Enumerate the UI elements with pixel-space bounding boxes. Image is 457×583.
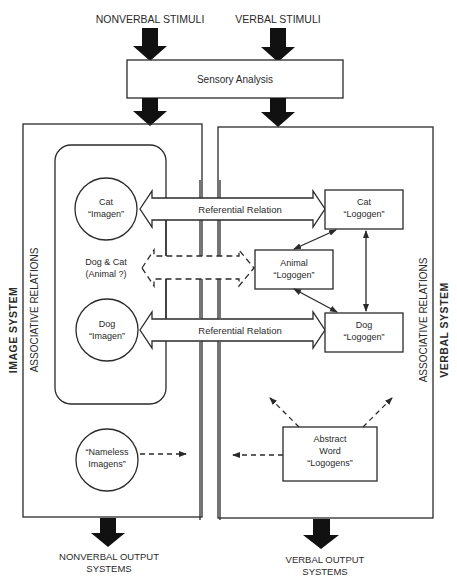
svg-text:Word: Word [319, 446, 340, 456]
cat-imagen-node: Cat “Imagen” [75, 178, 137, 240]
cat-logogen-node: Cat “Logogen” [325, 190, 403, 229]
svg-text:Cat: Cat [99, 197, 114, 207]
verbal-output-arrow-icon [303, 519, 339, 549]
referential-relation-label-2: Referential Relation [198, 325, 281, 336]
nonverbal-input-arrow-icon [133, 28, 167, 61]
image-associative-relations-label: ASSOCIATIVE RELATIONS [29, 247, 40, 372]
svg-text:Dog & Cat: Dog & Cat [85, 257, 127, 267]
referential-relation-label-1: Referential Relation [198, 204, 281, 215]
svg-text:Dog: Dog [356, 320, 373, 330]
svg-text:Dog: Dog [99, 319, 116, 329]
svg-text:Cat: Cat [357, 197, 372, 207]
svg-text:“Imagen”: “Imagen” [88, 209, 124, 219]
nameless-imagens-node: “Nameless Imagens” [76, 429, 138, 491]
svg-text:“Logogen”: “Logogen” [343, 332, 384, 342]
verbal-associative-relations-label: ASSOCIATIVE RELATIONS [418, 257, 429, 382]
image-system-label: IMAGE SYSTEM [7, 287, 19, 374]
verbal-output-label-line1: VERBAL OUTPUT [286, 554, 365, 565]
nonverbal-output-label-line1: NONVERBAL OUTPUT [59, 551, 159, 562]
abstract-word-logogens-node: Abstract Word “Logogens” [283, 427, 377, 481]
svg-text:Animal: Animal [280, 258, 308, 268]
svg-text:Imagens”: Imagens” [88, 459, 126, 469]
verbal-input-arrow-icon [261, 28, 295, 62]
svg-text:“Nameless: “Nameless [85, 447, 129, 457]
verbal-system-label: VERBAL SYSTEM [438, 282, 450, 378]
svg-text:Abstract: Abstract [313, 434, 347, 444]
svg-text:“Imagen”: “Imagen” [89, 331, 125, 341]
verbal-system-input-arrow-icon [261, 98, 295, 127]
animal-dashed-arrow [142, 250, 254, 286]
dog-cat-animal-node: Dog & Cat (Animal ?) [85, 257, 127, 279]
image-system-input-arrow-icon [133, 98, 167, 126]
connector-lines [166, 180, 220, 520]
svg-text:“Logogens”: “Logogens” [307, 458, 353, 468]
verbal-stimuli-label: VERBAL STIMULI [235, 13, 320, 25]
nonverbal-output-arrow-icon [91, 518, 125, 547]
svg-text:“Logogen”: “Logogen” [343, 209, 384, 219]
svg-text:“Logogen”: “Logogen” [273, 270, 314, 280]
dual-coding-diagram: NONVERBAL STIMULI VERBAL STIMULI Sensory… [0, 0, 457, 583]
nonverbal-output-label-line2: SYSTEMS [86, 563, 131, 574]
sensory-analysis-label: Sensory Analysis [197, 74, 273, 85]
dog-imagen-node: Dog “Imagen” [76, 299, 138, 361]
animal-logogen-node: Animal “Logogen” [255, 250, 333, 289]
nonverbal-stimuli-label: NONVERBAL STIMULI [96, 13, 205, 25]
dog-logogen-node: Dog “Logogen” [325, 313, 403, 352]
svg-text:(Animal ?): (Animal ?) [85, 269, 126, 279]
verbal-output-label-line2: SYSTEMS [302, 566, 347, 577]
